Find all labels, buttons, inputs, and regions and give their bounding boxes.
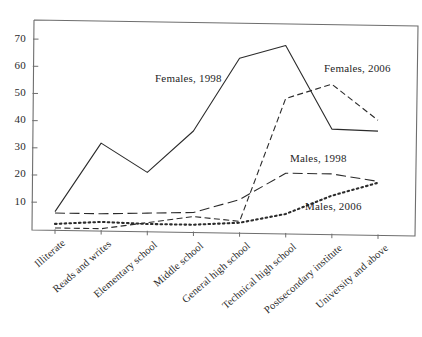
chart-figure: 10203040506070 IlliterateReads and write… (0, 0, 422, 337)
series-annotation-females-2006: Females, 2006 (324, 62, 391, 74)
y-tick-label: 50 (4, 86, 26, 98)
series-annotation-females-1998: Females, 1998 (155, 72, 222, 84)
y-tick-label: 20 (4, 167, 26, 179)
series-annotation-males-2006: Males, 2006 (305, 200, 362, 212)
series-annotation-males-1998: Males, 1998 (290, 152, 347, 164)
y-tick-label: 30 (4, 140, 26, 152)
y-tick-label: 60 (4, 59, 26, 71)
y-tick-label: 40 (4, 113, 26, 125)
y-tick-label: 70 (4, 32, 26, 44)
y-tick-label: 10 (4, 195, 26, 207)
